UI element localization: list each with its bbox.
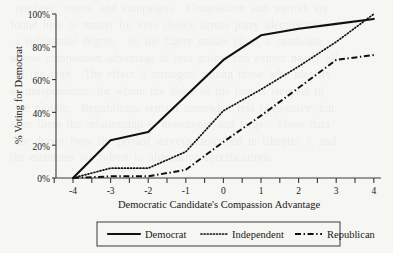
y-tick-label-20: 20% [33,142,51,152]
y-tick-label-60: 60% [33,76,51,86]
y-tick-label-100: 100% [28,10,50,20]
y-tick-label-40: 40% [33,109,51,119]
series-line-republican [73,55,374,178]
x-axis-title: Democratic Candidate's Compassion Advant… [118,199,321,210]
y-axis-title: % Voting for Democrat [13,46,24,144]
x-tick-label-2: 2 [296,186,301,196]
x-tick-label--3: -3 [107,186,115,196]
x-axis-major-tick-marks [73,178,374,183]
x-tick-label-0: 0 [221,186,226,196]
y-tick-label-80: 80% [33,43,51,53]
x-tick-label-4: 4 [371,186,376,196]
y-tick-label-0: 0% [37,174,50,184]
x-tick-label--1: -1 [182,186,190,196]
series-line-independent [73,14,374,178]
x-tick-label--2: -2 [144,186,152,196]
x-tick-label--4: -4 [69,186,77,196]
legend-label-democrat: Democrat [145,229,186,240]
x-axis-minor-tick-marks [54,178,355,183]
x-tick-label-3: 3 [334,186,339,196]
compassion-advantage-line-chart: % Voting for Democrat 100% 80% 60% 40% 2… [0,0,393,253]
series-line-democrat [73,19,374,178]
y-axis-tick-marks [52,14,56,178]
legend-label-independent: Independent [232,229,284,240]
x-tick-label-1: 1 [259,186,264,196]
legend-label-republican: Republican [327,229,376,240]
